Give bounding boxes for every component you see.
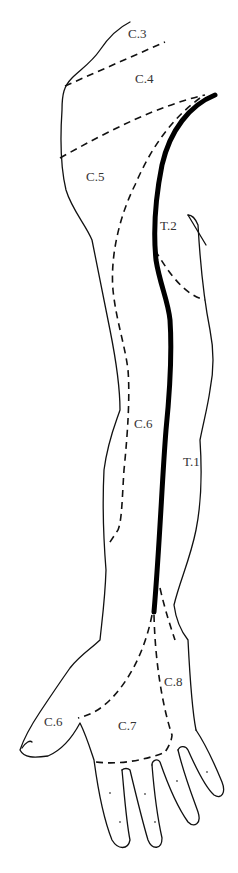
arm-outline-medial (174, 215, 213, 730)
dot (109, 792, 111, 794)
finger-ring-outline (178, 730, 224, 797)
boundary-t1-c8 (160, 588, 175, 640)
dot (206, 771, 208, 773)
boundary-c4-c5 (60, 95, 205, 158)
dot (176, 780, 178, 782)
label-c6-arm: C.6 (134, 416, 153, 431)
dot (154, 821, 156, 823)
dot (119, 821, 121, 823)
dot (144, 793, 146, 795)
boundary-c6-c7 (78, 615, 152, 718)
arm-outline-lateral (20, 22, 130, 848)
label-c4: C.4 (135, 71, 154, 86)
label-t1: T.1 (183, 454, 200, 469)
finger-middle-outline (152, 750, 199, 825)
label-c7: C.7 (118, 718, 137, 733)
label-t2: T.2 (160, 218, 177, 233)
axilla-line (188, 215, 206, 245)
label-c3: C.3 (128, 26, 146, 41)
label-c5: C.5 (86, 169, 104, 184)
axial-line (154, 95, 215, 612)
label-c6-thumb: C.6 (44, 714, 63, 729)
boundary-knuckles (96, 752, 166, 763)
boundary-c5-c6-arm (108, 98, 200, 545)
dermatome-diagram: C.3 C.4 C.5 T.2 C.6 T.1 C.8 C.6 C.7 (0, 0, 238, 873)
finger-index-outline (122, 765, 162, 847)
label-c8: C.8 (164, 674, 182, 689)
